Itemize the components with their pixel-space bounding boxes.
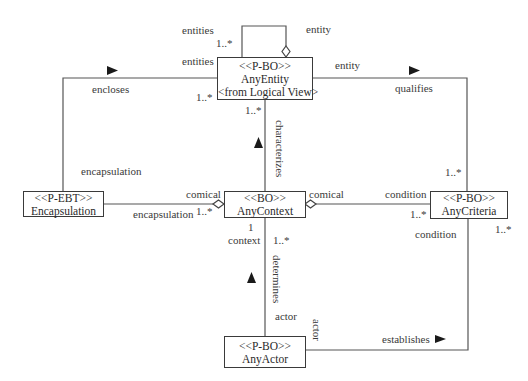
stereotype: <<P-BO>> <box>431 192 507 205</box>
mult-establishes-criteria: 1..* <box>495 223 512 235</box>
class-any-context[interactable]: <<BO>> AnyContext <box>224 191 306 218</box>
mult-qualifies-criteria: 1..* <box>445 166 462 178</box>
role-actor-establishes: actor <box>311 319 323 341</box>
assoc-establishes-label: establishes <box>382 333 430 345</box>
stereotype: <<P-BO>> <box>218 60 312 73</box>
class-encapsulation[interactable]: <<P-EBT>> Encapsulation <box>23 191 104 217</box>
self-loop-line <box>242 26 286 57</box>
direction-arrow-up-icon <box>247 272 256 283</box>
role-comical-left: comical <box>186 188 221 200</box>
direction-arrow-right-icon <box>107 66 118 75</box>
assoc-qualifies-label: qualifies <box>395 82 433 94</box>
class-name: AnyEntity <box>218 73 312 86</box>
class-name: AnyCriteria <box>431 205 507 218</box>
role-entities-top: entities <box>182 24 214 36</box>
assoc-characterizes-label: characterizes <box>274 120 286 177</box>
stereotype: <<P-EBT>> <box>24 192 103 205</box>
direction-arrow-right-icon <box>435 335 446 343</box>
role-encapsulation-encloses: encapsulation <box>81 165 141 177</box>
assoc-determines-label: determines <box>271 255 283 303</box>
stereotype: <<BO>> <box>225 192 305 205</box>
mult-determines-actor: 1..* <box>273 234 290 246</box>
role-condition-establishes: condition <box>415 228 457 240</box>
class-name: AnyActor <box>225 353 305 366</box>
class-any-actor[interactable]: <<P-BO>> AnyActor <box>224 336 306 368</box>
role-context-determines: context <box>228 234 260 246</box>
role-entities-bottom: entities <box>182 55 214 67</box>
aggregation-diamond-icon <box>213 200 224 208</box>
class-any-entity[interactable]: <<P-BO>> AnyEntity <from Logical View> <box>217 57 313 100</box>
role-condition-context: condition <box>385 188 427 200</box>
mult-determines-context: 1 <box>248 221 254 233</box>
class-any-criteria[interactable]: <<P-BO>> AnyCriteria <box>430 191 508 219</box>
mult-entities-top: 1..* <box>216 37 233 49</box>
aggregation-diamond-icon <box>305 200 316 208</box>
class-note: <from Logical View> <box>218 86 312 99</box>
direction-arrow-right-icon <box>409 66 420 75</box>
role-entity-qualifies: entity <box>335 59 360 71</box>
aggregation-diamond-icon <box>282 46 290 57</box>
mult-encapsulation-context: 1..* <box>196 205 213 217</box>
mult-characterizes-entity: 1..* <box>245 104 262 116</box>
class-name: Encapsulation <box>24 205 103 218</box>
assoc-encloses-label: encloses <box>92 83 129 95</box>
stereotype: <<P-BO>> <box>225 340 305 353</box>
mult-encloses-entity: 1..* <box>196 91 213 103</box>
qualifies-line <box>312 78 467 191</box>
direction-arrow-up-icon <box>254 137 263 148</box>
class-name: AnyContext <box>225 205 305 218</box>
mult-context-criteria: 1..* <box>410 208 427 220</box>
role-entity-loop: entity <box>306 23 331 35</box>
role-actor-determines: actor <box>275 310 297 322</box>
role-comical-right: comical <box>309 188 344 200</box>
role-encapsulation-context: encapsulation <box>133 208 193 220</box>
